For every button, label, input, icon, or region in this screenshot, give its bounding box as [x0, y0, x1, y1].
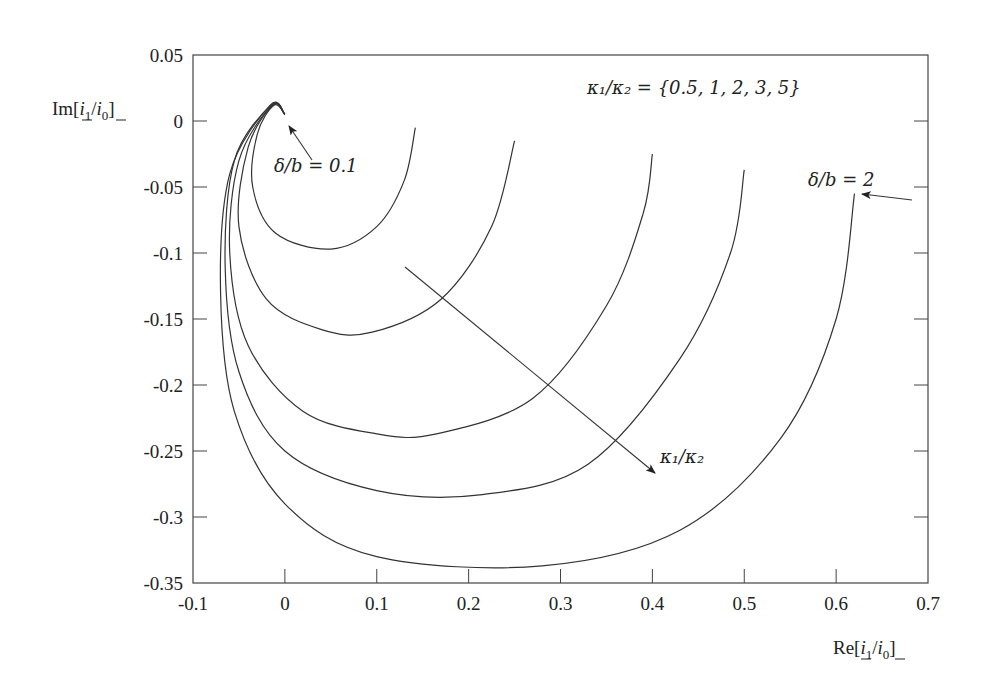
- x-tick-label: 0.3: [549, 593, 573, 614]
- y-tick-label: -0.05: [143, 177, 183, 198]
- x-tick-label: 0.4: [641, 593, 665, 614]
- x-axis-ticks: -0.100.10.20.30.40.50.60.7: [178, 569, 940, 614]
- curve-series-2: [238, 104, 514, 335]
- delta-small-label: δ/b = 0.1: [274, 155, 358, 176]
- y-tick-label: -0.25: [143, 441, 183, 462]
- delta-large-label: δ/b = 2: [808, 169, 874, 190]
- x-tick-label: 0.5: [732, 593, 756, 614]
- x-tick-label: 0: [280, 593, 290, 614]
- y-tick-label: 0: [174, 111, 184, 132]
- x-tick-label: 0.2: [457, 593, 481, 614]
- x-axis-title: Re[i1/i0]: [833, 637, 896, 662]
- y-tick-label: -0.3: [153, 507, 183, 528]
- delta-large-arrow: [862, 194, 912, 200]
- x-tick-label: -0.1: [178, 593, 208, 614]
- y-axis-ticks: 0.050-0.05-0.1-0.15-0.2-0.25-0.3-0.35: [143, 45, 928, 594]
- plot-frame: [193, 55, 928, 583]
- y-tick-label: -0.1: [153, 243, 183, 264]
- x-tick-label: 0.7: [916, 593, 940, 614]
- y-tick-label: -0.15: [143, 309, 183, 330]
- kappa-direction-arrow: [405, 267, 655, 473]
- chart-canvas: -0.100.10.20.30.40.50.60.7 0.050-0.05-0.…: [0, 0, 988, 693]
- curve-series-3: [229, 103, 652, 437]
- y-tick-label: 0.05: [150, 45, 183, 66]
- y-tick-label: -0.35: [143, 573, 183, 594]
- parameter-set-label: κ₁/κ₂ = {0.5, 1, 2, 3, 5}: [586, 77, 801, 98]
- y-axis-title: Im[i1/i0]: [52, 98, 115, 123]
- x-tick-label: 0.6: [824, 593, 848, 614]
- kappa-arrow-label: κ₁/κ₂: [659, 446, 704, 467]
- x-tick-label: 0.1: [365, 593, 389, 614]
- y-tick-label: -0.2: [153, 375, 183, 396]
- curve-series-1: [252, 105, 416, 250]
